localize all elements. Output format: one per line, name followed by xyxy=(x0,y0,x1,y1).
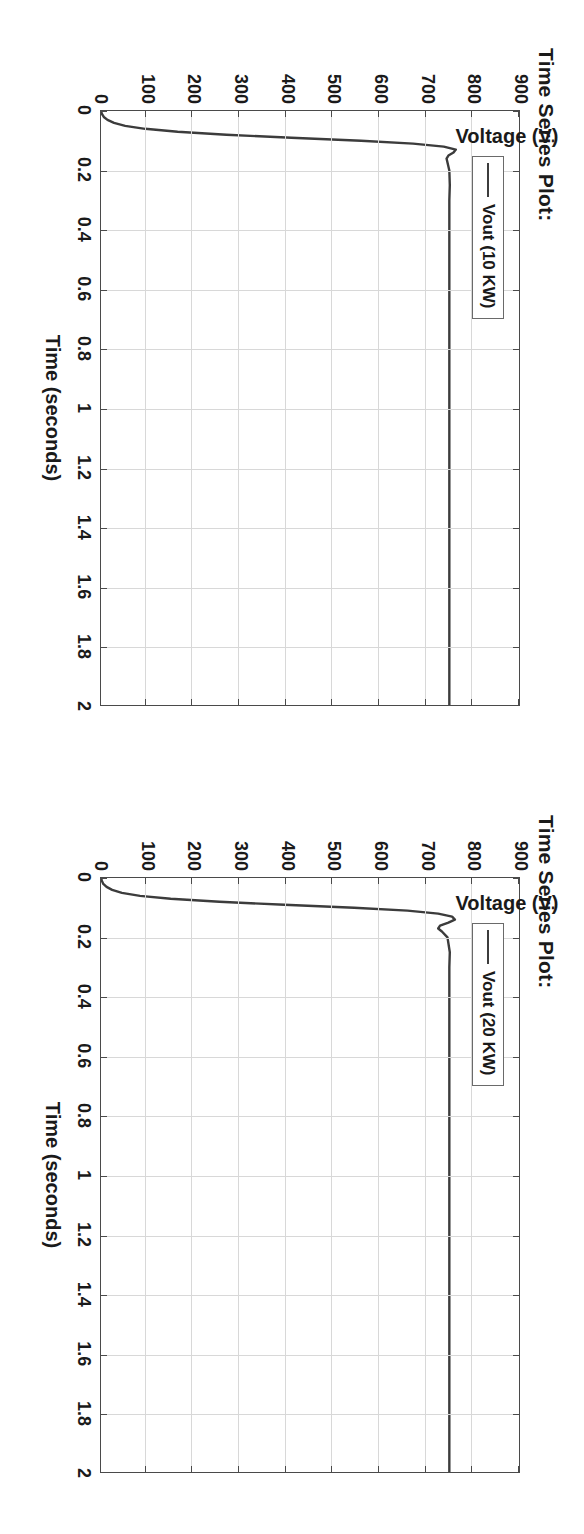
y-axis-tick xyxy=(471,1466,472,1472)
gridline-vertical xyxy=(101,937,519,938)
gridline-vertical xyxy=(101,349,519,350)
x-axis-tick-label: 0.6 xyxy=(73,1043,94,1068)
y-axis-tick xyxy=(191,111,192,117)
gridline-vertical xyxy=(101,1116,519,1117)
gridline-vertical xyxy=(101,230,519,231)
gridline-horizontal xyxy=(331,111,332,705)
x-axis-tick-label: 0.2 xyxy=(73,157,94,182)
x-axis-tick-label: 1.6 xyxy=(73,1341,94,1366)
y-axis-tick xyxy=(191,878,192,884)
y-axis-tick-label: 600 xyxy=(370,840,391,870)
legend-line-swatch-icon xyxy=(487,930,489,964)
gridline-vertical xyxy=(101,409,519,410)
legend-label: Vout (20 KW) xyxy=(478,971,498,1076)
x-axis-tick xyxy=(513,289,519,290)
x-axis-tick xyxy=(513,170,519,171)
x-axis-tick xyxy=(101,111,107,112)
legend-box: Vout (20 KW) xyxy=(472,923,504,1086)
x-axis-tick xyxy=(101,878,107,879)
x-axis-tick-label: 0.4 xyxy=(73,983,94,1008)
gridline-vertical xyxy=(101,1354,519,1355)
y-axis-tick xyxy=(285,111,286,117)
series-line-vout-10kw xyxy=(101,111,456,705)
y-axis-tick-label: 900 xyxy=(510,840,531,870)
x-axis-tick xyxy=(513,937,519,938)
x-axis-tick-label: 1.4 xyxy=(73,1281,94,1306)
plot-area xyxy=(100,110,520,706)
y-axis-tick-label: 900 xyxy=(510,73,531,103)
y-axis-tick-label: 0 xyxy=(90,860,111,870)
y-axis-tick xyxy=(331,111,332,117)
y-axis-tick xyxy=(145,111,146,117)
x-axis-tick xyxy=(513,1176,519,1177)
gridline-vertical xyxy=(101,1414,519,1415)
y-axis-tick xyxy=(425,699,426,705)
x-axis-tick xyxy=(101,997,107,998)
x-axis-title: Time (seconds) xyxy=(41,877,64,1473)
x-axis-tick xyxy=(513,1414,519,1415)
x-axis-tick-labels: 00.20.40.60.811.21.41.61.82 xyxy=(68,110,94,706)
x-axis-tick xyxy=(101,349,107,350)
x-axis-tick-label: 0.6 xyxy=(73,276,94,301)
x-axis-tick xyxy=(101,647,107,648)
figure-top: Time Series Plot: 00.20.40.60.811.21.41.… xyxy=(0,0,584,767)
y-axis-tick-label: 200 xyxy=(183,840,204,870)
x-axis-tick-label: 1.2 xyxy=(73,455,94,480)
gridline-horizontal xyxy=(145,111,146,705)
y-axis-tick xyxy=(518,878,519,884)
y-axis-tick-label: 800 xyxy=(463,840,484,870)
x-axis-tick xyxy=(101,1354,107,1355)
y-axis-tick-label: 100 xyxy=(136,73,157,103)
x-axis-tick-label: 2 xyxy=(73,1467,94,1477)
x-axis-tick xyxy=(513,1235,519,1236)
y-axis-tick xyxy=(145,1466,146,1472)
gridline-vertical xyxy=(101,1056,519,1057)
y-axis-title: Voltage (V) xyxy=(297,890,584,916)
x-axis-tick-label: 1 xyxy=(73,1169,94,1179)
x-axis-tick-label: 1.6 xyxy=(73,574,94,599)
y-axis-tick xyxy=(331,1466,332,1472)
x-axis-tick xyxy=(101,170,107,171)
legend-label: Vout (10 KW) xyxy=(478,204,498,309)
plot-area xyxy=(100,877,520,1473)
gridline-vertical xyxy=(101,468,519,469)
y-axis-tick xyxy=(378,878,379,884)
x-axis-tick-labels: 00.20.40.60.811.21.41.61.82 xyxy=(68,877,94,1473)
x-axis-tick-label: 1.2 xyxy=(73,1222,94,1247)
x-axis-tick-label: 0.8 xyxy=(73,1102,94,1127)
y-axis-tick xyxy=(238,878,239,884)
legend-box: Vout (10 KW) xyxy=(472,156,504,319)
x-axis-tick xyxy=(101,528,107,529)
y-axis-tick xyxy=(191,1466,192,1472)
y-axis-title: Voltage (V) xyxy=(297,123,584,149)
y-axis-tick xyxy=(285,878,286,884)
y-axis-tick-label: 700 xyxy=(416,840,437,870)
x-axis-tick xyxy=(513,409,519,410)
y-axis-tick xyxy=(518,699,519,705)
y-axis-tick xyxy=(191,699,192,705)
y-axis-tick xyxy=(145,699,146,705)
x-axis-tick-label: 2 xyxy=(73,700,94,710)
x-axis-tick-label: 1.8 xyxy=(73,633,94,658)
x-axis-tick-label: 0.8 xyxy=(73,335,94,360)
y-axis-tick xyxy=(145,878,146,884)
y-axis-tick xyxy=(238,111,239,117)
y-axis-tick xyxy=(285,1466,286,1472)
series-canvas xyxy=(101,878,519,1472)
x-axis-tick-label: 1.8 xyxy=(73,1400,94,1425)
series-canvas xyxy=(101,111,519,705)
y-axis-tick xyxy=(331,878,332,884)
gridline-horizontal xyxy=(378,111,379,705)
gridline-horizontal xyxy=(191,111,192,705)
gridline-horizontal xyxy=(145,878,146,1472)
gridline-vertical xyxy=(101,647,519,648)
legend-line-swatch-icon xyxy=(487,163,489,197)
x-axis-tick xyxy=(513,230,519,231)
y-axis-tick xyxy=(285,699,286,705)
y-axis-tick xyxy=(378,1466,379,1472)
x-axis-tick xyxy=(101,409,107,410)
y-axis-tick xyxy=(238,699,239,705)
x-axis-tick xyxy=(513,997,519,998)
series-line-vout-20kw xyxy=(101,878,455,1472)
x-axis-tick-label: 0.4 xyxy=(73,216,94,241)
